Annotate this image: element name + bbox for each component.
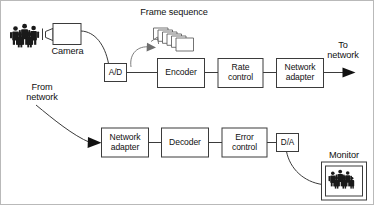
block-network-adapter-rx-label: Network adapter	[102, 128, 149, 157]
block-diagram-figure: Frame sequence Camera To network From ne…	[0, 0, 374, 205]
curved-rotate-arrow-icon	[131, 37, 159, 67]
monitor-icon	[322, 162, 367, 200]
block-rate-control-label: Rate control	[218, 59, 263, 88]
block-ad-label: A/D	[105, 64, 127, 82]
block-da-label: D/A	[277, 134, 299, 152]
block-encoder-label: Encoder	[158, 59, 205, 88]
frame-sequence-label: Frame sequence	[120, 6, 228, 18]
arrow-right-icon-from-network	[88, 137, 102, 148]
arrow-right-icon-to-network	[343, 68, 356, 78]
block-network-adapter-tx-label: Network adapter	[277, 59, 324, 88]
monitor-label: Monitor	[316, 149, 372, 161]
from-network-wire	[36, 105, 90, 143]
frame-stack-icon	[154, 28, 194, 51]
people-group-icon	[10, 24, 39, 48]
camera-icon	[43, 24, 82, 45]
block-decoder-label: Decoder	[162, 128, 209, 157]
from-network-label: From network	[11, 81, 73, 103]
diagram-canvas	[1, 1, 374, 205]
block-error-control-label: Error control	[222, 128, 267, 157]
camera-label: Camera	[40, 45, 95, 57]
